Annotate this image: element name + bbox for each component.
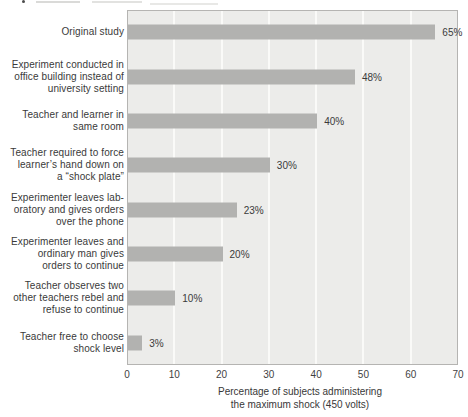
category-label-line: Teacher free to choose: [0, 331, 124, 343]
chart-row: Teacher observes twoother teachers rebel…: [0, 276, 468, 320]
category-label-line: Experimenter leaves lab-: [0, 192, 124, 204]
category-label: Teacher and learner insame room: [0, 109, 124, 133]
category-label: Experimenter leaves andordinary man give…: [0, 236, 124, 272]
x-tick-label: 20: [216, 369, 227, 380]
category-label-line: office building instead of: [0, 71, 124, 83]
cropped-glyph-dash: [150, 3, 218, 5]
category-label-line: Original study: [0, 26, 124, 38]
chart-row: Experimenter leaves lab-oratory and give…: [0, 188, 468, 232]
category-label: Experimenter leaves lab-oratory and give…: [0, 192, 124, 228]
value-label: 20%: [230, 249, 250, 260]
category-label-line: oratory and gives orders: [0, 204, 124, 216]
milgram-obedience-bar-chart: Original study65%Experiment conducted in…: [0, 0, 468, 417]
bar: [128, 247, 223, 262]
x-axis-title: Percentage of subjects administering the…: [218, 386, 382, 411]
category-label-line: Experimenter leaves and: [0, 236, 124, 248]
category-label-line: same room: [0, 121, 124, 133]
cropped-glyph-dot: [22, 0, 25, 3]
category-label-line: over the phone: [0, 216, 124, 228]
category-label-line: Experiment conducted in: [0, 59, 124, 71]
category-label-line: other teachers rebel and: [0, 292, 124, 304]
x-tick-label: 10: [169, 369, 180, 380]
bar-track: 65%: [124, 10, 468, 54]
value-label: 40%: [324, 115, 344, 126]
x-axis-title-line-2: the maximum shock (450 volts): [218, 399, 382, 412]
category-label-line: Teacher observes two: [0, 280, 124, 292]
x-axis-title-line-1: Percentage of subjects administering: [218, 386, 382, 399]
bar: [128, 291, 175, 306]
bar: [128, 69, 355, 84]
category-label-line: learner’s hand down on: [0, 159, 124, 171]
value-label: 23%: [244, 204, 264, 215]
category-label: Original study: [0, 26, 124, 38]
chart-row: Original study65%: [0, 10, 468, 54]
value-label: 10%: [182, 293, 202, 304]
bar: [128, 335, 142, 350]
cropped-glyph-dash: [92, 1, 142, 3]
bar: [128, 158, 270, 173]
value-label: 3%: [149, 337, 163, 348]
bar-track: 20%: [124, 232, 468, 276]
chart-row: Teacher required to forcelearner’s hand …: [0, 143, 468, 187]
category-label-line: orders to continue: [0, 260, 124, 272]
bar-track: 48%: [124, 54, 468, 98]
x-tick-label: 50: [358, 369, 369, 380]
value-label: 30%: [277, 160, 297, 171]
x-tick-label: 0: [124, 369, 130, 380]
bar: [128, 202, 237, 217]
chart-row: Teacher and learner insame room40%: [0, 99, 468, 143]
chart-row: Teacher free to chooseshock level3%: [0, 321, 468, 365]
category-label: Experiment conducted inoffice building i…: [0, 59, 124, 95]
category-label: Teacher free to chooseshock level: [0, 331, 124, 355]
category-label: Teacher required to forcelearner’s hand …: [0, 147, 124, 183]
bar-track: 10%: [124, 276, 468, 320]
chart-row: Experiment conducted inoffice building i…: [0, 54, 468, 98]
bar: [128, 113, 317, 128]
x-tick-label: 30: [263, 369, 274, 380]
value-label: 65%: [442, 27, 462, 38]
value-label: 48%: [362, 71, 382, 82]
category-label-line: a “shock plate”: [0, 171, 124, 183]
bar-track: 40%: [124, 99, 468, 143]
category-label-line: ordinary man gives: [0, 248, 124, 260]
category-label-line: university setting: [0, 83, 124, 95]
bars-layer: Original study65%Experiment conducted in…: [0, 10, 468, 365]
bar-track: 30%: [124, 143, 468, 187]
bar: [128, 25, 435, 40]
x-tick-label: 70: [452, 369, 463, 380]
x-tick-label: 40: [311, 369, 322, 380]
category-label-line: Teacher required to force: [0, 147, 124, 159]
bar-track: 23%: [124, 188, 468, 232]
category-label-line: Teacher and learner in: [0, 109, 124, 121]
cropped-glyph-dash: [36, 1, 80, 3]
bar-track: 3%: [124, 321, 468, 365]
x-tick-label: 60: [405, 369, 416, 380]
category-label-line: refuse to continue: [0, 304, 124, 316]
category-label: Teacher observes twoother teachers rebel…: [0, 280, 124, 316]
x-axis: 010203040506070: [0, 369, 468, 381]
chart-row: Experimenter leaves andordinary man give…: [0, 232, 468, 276]
category-label-line: shock level: [0, 343, 124, 355]
